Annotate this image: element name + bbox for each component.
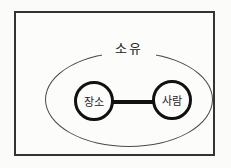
diagram-frame: 소유 장소 사람 <box>14 11 215 156</box>
node-place-label: 장소 <box>84 93 105 109</box>
diagram-canvas: 소유 장소 사람 <box>0 0 231 168</box>
node-person: 사람 <box>152 80 192 120</box>
node-place: 장소 <box>74 81 114 121</box>
relationship-label: 소유 <box>102 36 156 63</box>
edge-connector <box>112 100 154 104</box>
node-person-label: 사람 <box>162 92 183 108</box>
